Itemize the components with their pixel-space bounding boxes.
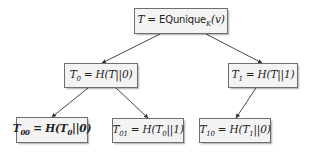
node-t01: T01 = H(T0||1) bbox=[112, 118, 184, 143]
node-root-equnique: T = EQuniqueK(v) bbox=[134, 8, 228, 34]
node-t10: T10 = H(T1||0) bbox=[199, 118, 271, 143]
edge-root-to-T0 bbox=[102, 34, 160, 63]
node-t00: T00 = H(T0||0) bbox=[16, 117, 88, 143]
edge-T0-to-T01 bbox=[116, 88, 148, 118]
node-label: T01 = H(T0||1) bbox=[112, 123, 183, 138]
edge-root-to-T1 bbox=[206, 34, 262, 63]
node-t1: T1 = H(T||1) bbox=[228, 63, 298, 88]
tree-diagram: T = EQuniqueK(v) T0 = H(T||0) T1 = H(T||… bbox=[0, 0, 314, 154]
node-label: T00 = H(T0||0) bbox=[13, 122, 91, 137]
edge-T1-to-T10 bbox=[236, 88, 256, 118]
node-label: T0 = H(T||0) bbox=[70, 68, 133, 83]
edge-T0-to-T00 bbox=[52, 88, 88, 117]
node-label: T = EQuniqueK(v) bbox=[137, 13, 224, 28]
node-label: T10 = H(T1||0) bbox=[199, 123, 270, 138]
node-label: T1 = H(T||1) bbox=[232, 68, 295, 83]
node-t0: T0 = H(T||0) bbox=[64, 63, 138, 88]
